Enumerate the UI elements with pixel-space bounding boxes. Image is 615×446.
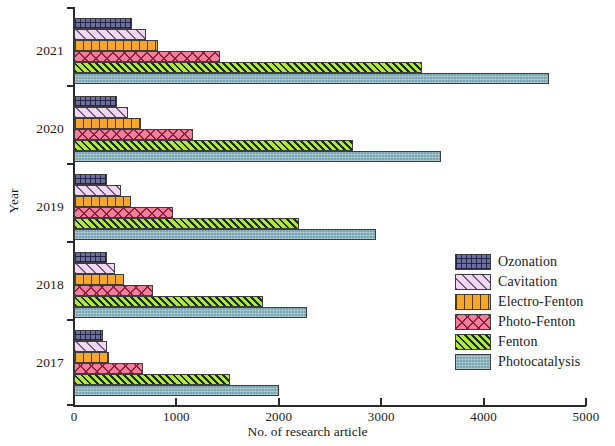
- legend-label-cavitation: Cavitation: [498, 274, 557, 290]
- bar-2019-electro-fenton: [74, 196, 131, 207]
- bar-2018-cavitation: [74, 263, 115, 274]
- legend-label-photocatalysis: Photocatalysis: [498, 354, 580, 370]
- bar-2018-photo-fenton: [74, 285, 153, 296]
- x-tick-label-1000: 1000: [163, 409, 190, 425]
- bar-2020-ozonation: [74, 96, 117, 107]
- bar-2017-electro-fenton: [74, 352, 109, 363]
- x-tick-label-5000: 5000: [573, 409, 600, 425]
- bar-2018-fenton: [74, 296, 263, 307]
- bar-2021-cavitation: [74, 29, 146, 40]
- y-tick-label-2019: 2019: [36, 199, 64, 215]
- x-tick-label-4000: 4000: [470, 409, 497, 425]
- chart-legend: OzonationCavitationElectro-FentonPhoto-F…: [455, 252, 583, 371]
- y-tick-2: [67, 163, 75, 165]
- bar-2017-ozonation: [74, 330, 103, 341]
- legend-item-electro-fenton: Electro-Fenton: [455, 292, 583, 311]
- legend-swatch-photo-fenton: [455, 314, 491, 330]
- bar-2021-ozonation: [74, 18, 132, 29]
- bar-2021-photocatalysis: [74, 73, 549, 84]
- legend-label-fenton: Fenton: [498, 334, 538, 350]
- legend-item-cavitation: Cavitation: [455, 272, 583, 291]
- x-tick-4000: [483, 398, 485, 406]
- bar-2020-photo-fenton: [74, 129, 193, 140]
- x-tick-label-0: 0: [71, 409, 78, 425]
- bar-2017-photocatalysis: [74, 385, 279, 396]
- y-tick-5: [67, 404, 75, 406]
- bar-2021-photo-fenton: [74, 51, 220, 62]
- bar-chart: 010002000300040005000 202120202019201820…: [0, 0, 615, 446]
- legend-item-photo-fenton: Photo-Fenton: [455, 312, 583, 331]
- x-tick-5000: [585, 398, 587, 406]
- y-tick-1: [67, 85, 75, 87]
- legend-label-electro-fenton: Electro-Fenton: [498, 294, 583, 310]
- y-tick-4: [67, 319, 75, 321]
- legend-swatch-ozonation: [455, 254, 491, 270]
- x-tick-label-3000: 3000: [368, 409, 395, 425]
- bar-2017-cavitation: [74, 341, 107, 352]
- legend-swatch-fenton: [455, 334, 491, 350]
- bar-2021-fenton: [74, 62, 422, 73]
- bar-2020-fenton: [74, 140, 353, 151]
- bar-2017-photo-fenton: [74, 363, 143, 374]
- bar-2019-ozonation: [74, 174, 107, 185]
- legend-label-ozonation: Ozonation: [498, 254, 557, 270]
- x-tick-label-2000: 2000: [265, 409, 292, 425]
- y-tick-label-2018: 2018: [36, 277, 64, 293]
- y-tick-0: [67, 7, 75, 9]
- y-tick-label-2017: 2017: [36, 355, 64, 371]
- bar-2019-fenton: [74, 218, 299, 229]
- bar-2017-fenton: [74, 374, 230, 385]
- x-tick-2000: [278, 398, 280, 406]
- bar-2020-electro-fenton: [74, 118, 141, 129]
- x-tick-3000: [380, 398, 382, 406]
- legend-item-photocatalysis: Photocatalysis: [455, 352, 583, 371]
- bar-2019-photo-fenton: [74, 207, 173, 218]
- x-tick-1000: [175, 398, 177, 406]
- legend-item-ozonation: Ozonation: [455, 252, 583, 271]
- legend-item-fenton: Fenton: [455, 332, 583, 351]
- x-axis-line: [73, 405, 586, 407]
- bar-2018-electro-fenton: [74, 274, 124, 285]
- bar-2019-photocatalysis: [74, 229, 376, 240]
- legend-swatch-electro-fenton: [455, 294, 491, 310]
- y-tick-3: [67, 241, 75, 243]
- y-tick-label-2020: 2020: [36, 121, 64, 137]
- legend-swatch-photocatalysis: [455, 354, 491, 370]
- x-axis-title: No. of research article: [0, 424, 615, 440]
- legend-swatch-cavitation: [455, 274, 491, 290]
- bar-2018-photocatalysis: [74, 307, 307, 318]
- bar-2020-photocatalysis: [74, 151, 441, 162]
- legend-label-photo-fenton: Photo-Fenton: [498, 314, 575, 330]
- bar-2019-cavitation: [74, 185, 121, 196]
- y-axis-title: Year: [6, 171, 22, 231]
- bar-2018-ozonation: [74, 252, 107, 263]
- y-tick-label-2021: 2021: [36, 43, 64, 59]
- bar-2021-electro-fenton: [74, 40, 158, 51]
- bar-2020-cavitation: [74, 107, 128, 118]
